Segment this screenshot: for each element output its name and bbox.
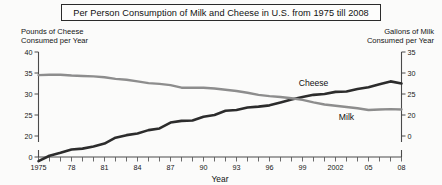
y-axis-tick-label: 20 — [25, 132, 33, 141]
y2-axis-tick-label: 25 — [408, 90, 416, 99]
x-axis-tick-label: 08 — [398, 163, 406, 172]
x-axis-tick-label: 81 — [101, 163, 109, 172]
x-axis-tick-label: 2002 — [328, 163, 344, 172]
y-axis-tick-label: 25 — [25, 111, 33, 120]
x-axis-tick-label: 1975 — [31, 163, 47, 172]
y-axis-tick-label: 35 — [25, 69, 33, 78]
y-axis-tick-label: 30 — [25, 90, 33, 99]
chart-page: Per Person Consumption of Milk and Chees… — [0, 0, 442, 185]
x-axis-tick-label: 90 — [200, 163, 208, 172]
x-axis-tick-label: 05 — [365, 163, 373, 172]
x-axis-title: Year — [212, 174, 229, 184]
line-chart: 0202530354002025303519757881848790939699… — [0, 0, 442, 185]
x-axis-tick-label: 87 — [167, 163, 175, 172]
series-label-cheese: Cheese — [299, 78, 329, 88]
x-axis-tick-label: 84 — [134, 163, 142, 172]
y-axis-tick-label: 0 — [29, 153, 33, 162]
x-axis-tick-label: 78 — [68, 163, 76, 172]
y2-axis-tick-label: 35 — [408, 48, 416, 57]
y2-axis-tick-label: 0 — [408, 132, 412, 141]
x-axis-tick-label: 93 — [233, 163, 241, 172]
y2-axis-tick-label: 30 — [408, 69, 416, 78]
y-axis-tick-label: 40 — [25, 48, 33, 57]
chart-axes: 0202530354002025303519757881848790939699… — [25, 48, 416, 184]
y2-axis-tick-label: 20 — [408, 111, 416, 120]
x-axis-tick-label: 96 — [266, 163, 274, 172]
x-axis-tick-label: 99 — [299, 163, 307, 172]
series-label-milk: Milk — [339, 112, 355, 122]
